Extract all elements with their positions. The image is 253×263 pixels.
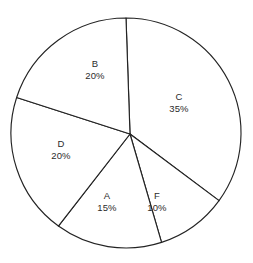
- pie-chart-canvas: [0, 0, 253, 263]
- pie-chart: C35%F10%A15%D20%B20%: [0, 0, 253, 263]
- pie-slice-group: [11, 18, 241, 248]
